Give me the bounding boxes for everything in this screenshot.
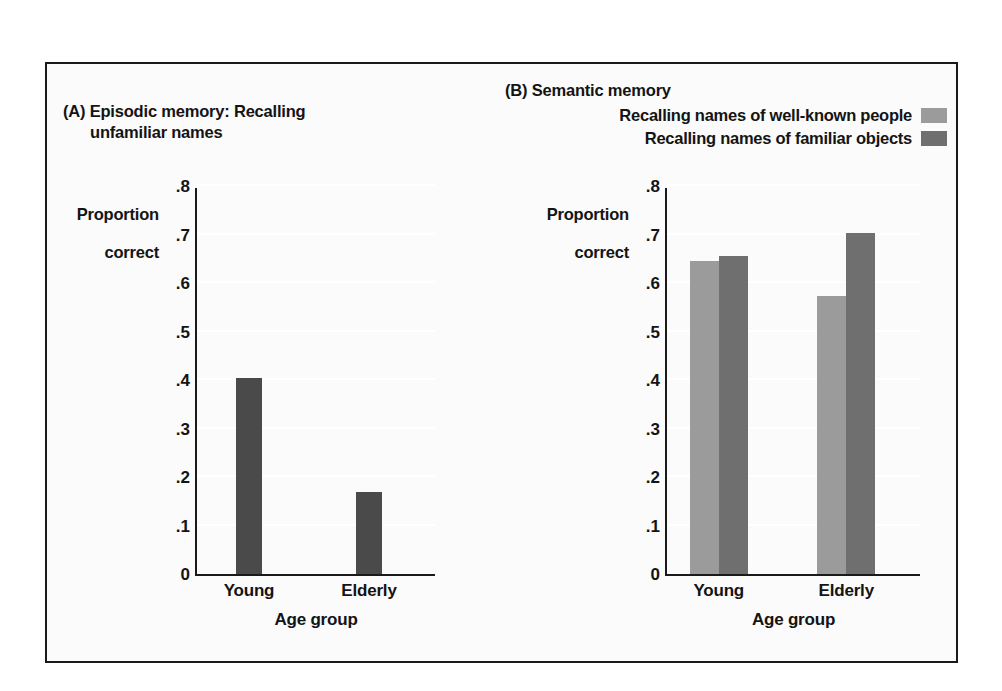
panel-a-bars — [197, 188, 435, 574]
panel-a-title-line2: unfamiliar names — [63, 122, 393, 143]
panel-b-x-axis-label: Age group — [752, 610, 835, 630]
panel-b-ylabel-line2: correct — [574, 243, 629, 261]
bar — [356, 492, 382, 574]
bar — [236, 378, 262, 574]
y-tick-label: .8 — [176, 178, 190, 195]
panel-b-semantic-memory: (B) Semantic memory Recalling names of w… — [495, 64, 958, 661]
panel-a-title: (A) Episodic memory: Recalling unfamilia… — [63, 80, 393, 164]
y-tick-label: .3 — [176, 420, 190, 437]
y-tick-label: .7 — [646, 226, 660, 243]
bar — [817, 296, 846, 574]
panel-a-title-line1: (A) Episodic memory: Recalling — [63, 102, 305, 120]
panel-b-bars — [667, 188, 920, 574]
gridline — [667, 184, 920, 186]
panel-b-title: (B) Semantic memory — [505, 80, 805, 101]
panel-a-x-axis-label: Age group — [274, 610, 357, 630]
panel-b-ylabel-line1: Proportion — [547, 205, 629, 223]
panel-a-plot-area: 0.1.2.3.4.5.6.7.8 YoungElderly Age group — [195, 188, 435, 576]
panel-a-ylabel-line1: Proportion — [77, 205, 159, 223]
y-tick-label: 0 — [651, 566, 660, 583]
y-tick-label: .6 — [646, 275, 660, 292]
legend-item-label: Recalling names of familiar objects — [645, 129, 912, 148]
y-tick-label: .6 — [176, 275, 190, 292]
legend-item-label: Recalling names of well-known people — [619, 106, 912, 125]
y-tick-label: .2 — [646, 469, 660, 486]
x-tick-label: Elderly — [341, 581, 396, 601]
bar — [846, 233, 875, 574]
legend-color-swatch — [921, 108, 947, 123]
legend-item: Recalling names of familiar objects — [515, 129, 947, 148]
y-tick-label: .8 — [646, 178, 660, 195]
y-tick-label: .4 — [646, 372, 660, 389]
gridline — [197, 184, 435, 186]
y-tick-label: .7 — [176, 226, 190, 243]
panel-b-legend: Recalling names of well-known peopleReca… — [515, 106, 947, 152]
y-tick-label: .5 — [646, 323, 660, 340]
y-tick-label: .1 — [176, 517, 190, 534]
panel-a-ylabel-line2: correct — [104, 243, 159, 261]
panel-b-plot-area: 0.1.2.3.4.5.6.7.8 YoungElderly Age group — [665, 188, 920, 576]
bar — [690, 261, 719, 574]
y-tick-label: .1 — [646, 517, 660, 534]
panel-a-y-axis-label: Proportion correct — [55, 186, 159, 263]
x-tick-label: Elderly — [819, 581, 874, 601]
y-tick-label: .3 — [646, 420, 660, 437]
legend-item: Recalling names of well-known people — [515, 106, 947, 125]
y-tick-label: .5 — [176, 323, 190, 340]
legend-color-swatch — [921, 131, 947, 146]
x-tick-label: Young — [224, 581, 275, 601]
figure-frame: (A) Episodic memory: Recalling unfamilia… — [45, 62, 958, 663]
y-tick-label: .2 — [176, 469, 190, 486]
y-tick-label: .4 — [176, 372, 190, 389]
panel-b-y-axis-label: Proportion correct — [525, 186, 629, 263]
x-tick-label: Young — [693, 581, 744, 601]
panel-a-episodic-memory: (A) Episodic memory: Recalling unfamilia… — [47, 64, 495, 661]
y-tick-label: 0 — [181, 566, 190, 583]
bar — [719, 256, 748, 574]
